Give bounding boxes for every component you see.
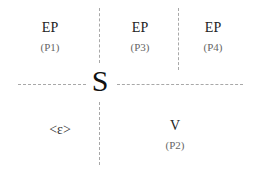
cell-label: EP [20, 20, 80, 36]
cell-bottom-left: <ε> [30, 122, 90, 138]
cell-label: EP [183, 20, 243, 36]
horizontal-divider-right [117, 84, 243, 85]
cell-top-right: EP (P4) [183, 20, 243, 54]
cell-top-middle: EP (P3) [110, 20, 170, 54]
horizontal-divider-left [18, 84, 86, 85]
center-label: S [88, 66, 112, 96]
cell-label: EP [110, 20, 170, 36]
cell-sublabel: (P4) [183, 40, 243, 54]
cell-sublabel: (P1) [20, 40, 80, 54]
cell-sublabel: (P2) [145, 138, 205, 152]
vertical-divider-main-top [99, 8, 100, 63]
cell-sublabel: (P3) [110, 40, 170, 54]
vertical-divider-right [178, 8, 179, 70]
cell-bottom-right: V (P2) [145, 118, 205, 152]
cell-label: <ε> [30, 122, 90, 138]
cell-top-left: EP (P1) [20, 20, 80, 54]
cell-label: V [145, 118, 205, 134]
vertical-divider-main-bottom [99, 102, 100, 165]
